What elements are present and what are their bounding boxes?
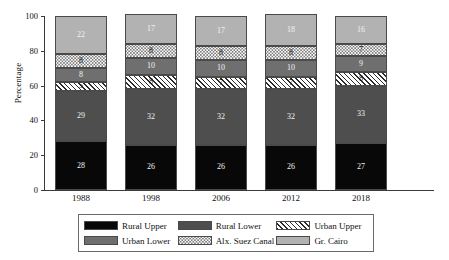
bar-segment: 32	[125, 89, 177, 145]
bar-segment-value: 10	[147, 62, 155, 70]
legend-item-urban-upper: Urban Upper	[276, 221, 368, 231]
bar-segment: 28	[55, 141, 107, 190]
bar-segment: 8	[265, 46, 317, 60]
bar-segment: 26	[265, 145, 317, 190]
legend-item-urban-lower: Urban Lower	[84, 236, 176, 246]
x-tick-label: 2012	[261, 193, 321, 203]
legend-swatch-rural-upper	[84, 221, 118, 230]
bar-segment-value: 7	[359, 46, 363, 54]
bar-segment-value: 22	[77, 31, 85, 39]
bar-segment: 18	[265, 14, 317, 45]
y-tick-label: 60	[16, 82, 38, 91]
bar-segment-value: 10	[217, 64, 225, 72]
bar-segment-value: 33	[357, 110, 365, 118]
bar-segment-value: 8	[219, 49, 223, 57]
bar-segment: 7	[265, 77, 317, 89]
x-tick-label: 2006	[191, 193, 251, 203]
chart-legend: Rural UpperRural LowerUrban UpperUrban L…	[78, 214, 374, 252]
bar-segment: 26	[195, 145, 247, 190]
bar-segment: 8	[125, 75, 177, 89]
bar-segment: 29	[55, 91, 107, 141]
stacked-bar: 2632710818	[265, 0, 317, 190]
legend-label: Rural Upper	[122, 221, 167, 231]
bar-segment: 5	[55, 82, 107, 91]
bar-segment: 7	[335, 44, 387, 56]
y-tick-label: 80	[16, 47, 38, 56]
bar-segment-value: 26	[217, 163, 225, 171]
bar-segment-value: 17	[147, 25, 155, 33]
bar-segment-value: 8	[79, 57, 83, 65]
legend-label: Urban Upper	[314, 221, 361, 231]
bar-segment-value: 8	[149, 78, 153, 86]
legend-label: Rural Lower	[216, 221, 262, 231]
bar-segment: 16	[335, 16, 387, 44]
bar-segment: 22	[55, 16, 107, 54]
legend-label: Gr. Cairo	[314, 236, 348, 246]
bar-segment: 10	[125, 58, 177, 75]
x-tick-label: 1998	[121, 193, 181, 203]
bar-segment-value: 8	[149, 47, 153, 55]
bar-segment-value: 8	[289, 49, 293, 57]
plot-area: Percentage 020406080100 2829588222632810…	[0, 0, 449, 205]
legend-swatch-alx-suez	[178, 236, 212, 245]
bar-segment-value: 5	[79, 82, 83, 90]
y-tick-label: 20	[16, 151, 38, 160]
bar-segment-value: 27	[357, 163, 365, 171]
bar-segment-value: 32	[287, 113, 295, 121]
y-axis-line	[44, 16, 45, 191]
stacked-bar: 2632710817	[195, 0, 247, 190]
bar-segment: 32	[265, 89, 317, 145]
bar-segment: 17	[195, 16, 247, 46]
bar-segment: 8	[55, 54, 107, 68]
stacked-bar: 282958822	[55, 0, 107, 190]
legend-swatch-gr-cairo	[276, 236, 310, 245]
legend-item-rural-lower: Rural Lower	[178, 221, 275, 231]
bar-segment-value: 9	[359, 60, 363, 68]
bar-segment: 17	[125, 14, 177, 44]
bar-segment-value: 26	[147, 163, 155, 171]
legend-label: Urban Lower	[122, 236, 170, 246]
bar-segment: 8	[335, 72, 387, 86]
bar-segment: 9	[335, 56, 387, 72]
y-tick-label: 100	[16, 12, 38, 21]
bar-segment: 32	[195, 89, 247, 145]
bar-segment-value: 32	[217, 113, 225, 121]
bar-segment: 27	[335, 143, 387, 190]
bar-segment-value: 29	[77, 112, 85, 120]
bar-segment: 8	[195, 46, 247, 60]
bar-segment-value: 8	[359, 75, 363, 83]
stacked-bar: 2632810817	[125, 0, 177, 190]
bar-segment-value: 26	[287, 163, 295, 171]
bar-segment: 26	[125, 145, 177, 190]
y-tick-label: 40	[16, 116, 38, 125]
bar-segment: 8	[55, 68, 107, 82]
bar-segment: 33	[335, 86, 387, 143]
bar-segment-value: 7	[219, 79, 223, 87]
chart-figure: Percentage 020406080100 2829588222632810…	[0, 0, 449, 260]
bar-segment: 10	[195, 60, 247, 77]
stacked-bar: 273389716	[335, 0, 387, 190]
legend-swatch-rural-lower	[178, 221, 212, 230]
x-axis-line	[44, 190, 434, 191]
bar-segment-value: 8	[79, 71, 83, 79]
bar-segment-value: 18	[287, 26, 295, 34]
bar-segment: 8	[125, 44, 177, 58]
legend-label: Alx. Suez Canal	[216, 236, 275, 246]
bar-segment: 10	[265, 60, 317, 77]
bar-segment-value: 7	[289, 79, 293, 87]
x-tick-label: 1988	[51, 193, 111, 203]
legend-item-gr-cairo: Gr. Cairo	[276, 236, 368, 246]
bar-segment-value: 16	[357, 26, 365, 34]
bar-segment-value: 17	[217, 27, 225, 35]
x-tick-label: 2018	[331, 193, 391, 203]
legend-item-alx-suez: Alx. Suez Canal	[178, 236, 275, 246]
bar-segment-value: 28	[77, 162, 85, 170]
legend-swatch-urban-lower	[84, 236, 118, 245]
bar-segment-value: 10	[287, 64, 295, 72]
y-tick-label: 0	[16, 186, 38, 195]
legend-swatch-urban-upper	[276, 221, 310, 230]
legend-item-rural-upper: Rural Upper	[84, 221, 176, 231]
bar-segment-value: 32	[147, 113, 155, 121]
bar-segment: 7	[195, 77, 247, 89]
